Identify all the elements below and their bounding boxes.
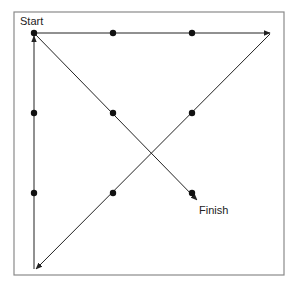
- finish-label: Finish: [199, 204, 228, 216]
- dot: [31, 190, 37, 196]
- diagram-svg: Start Finish: [0, 0, 294, 282]
- dot: [31, 30, 37, 36]
- dot: [31, 110, 37, 116]
- dot: [189, 190, 195, 196]
- dot: [110, 30, 116, 36]
- dot: [189, 110, 195, 116]
- start-label: Start: [20, 15, 43, 27]
- dot: [110, 190, 116, 196]
- dot: [189, 30, 195, 36]
- nine-dot-diagram: Start Finish: [0, 0, 294, 282]
- frame-border: [14, 12, 284, 275]
- dot: [110, 110, 116, 116]
